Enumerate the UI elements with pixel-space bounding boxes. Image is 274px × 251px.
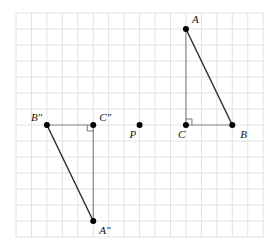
point-p bbox=[137, 122, 143, 128]
point-a-double-prime bbox=[90, 218, 96, 224]
label-c-double-prime: C″ bbox=[99, 111, 111, 123]
label-b: B bbox=[240, 128, 247, 140]
label-b-double-prime: B″ bbox=[31, 111, 43, 123]
rotation-diagram: A B C P A″ B″ C″ bbox=[0, 0, 274, 251]
label-a: A bbox=[191, 13, 199, 25]
point-b bbox=[229, 122, 235, 128]
diagram-canvas: A B C P A″ B″ C″ bbox=[0, 0, 274, 251]
label-c: C bbox=[178, 128, 186, 140]
label-a-double-prime: A″ bbox=[98, 224, 111, 236]
label-p: P bbox=[129, 128, 137, 140]
point-c-double-prime bbox=[90, 122, 96, 128]
point-b-double-prime bbox=[44, 122, 50, 128]
point-a bbox=[183, 26, 189, 32]
